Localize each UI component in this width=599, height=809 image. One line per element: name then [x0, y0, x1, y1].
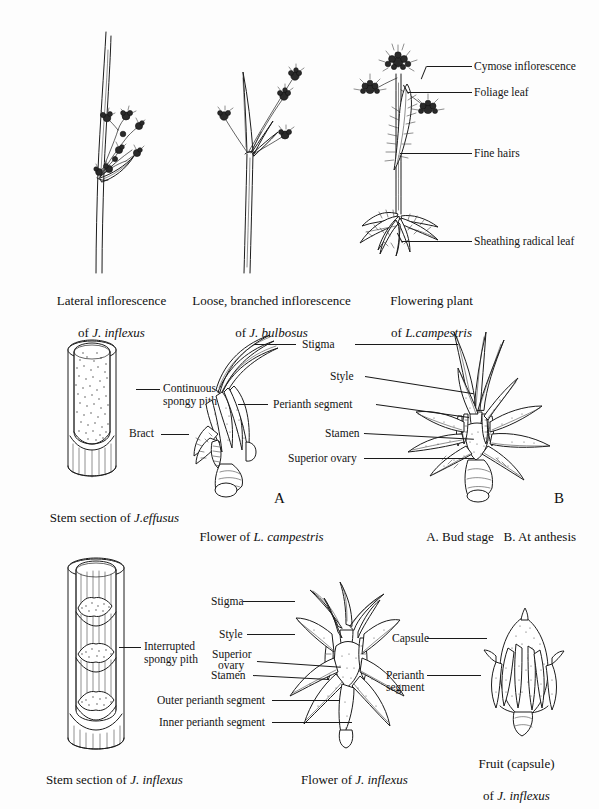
caption-line-1: Fruit (capsule)	[478, 756, 554, 771]
caption-prefix: Flower of	[199, 529, 253, 544]
leader-interrupted-spongy-pith	[119, 647, 141, 648]
label-perianth-segment-mid: Perianth segment	[273, 398, 353, 411]
leader-bract	[161, 434, 189, 435]
label-superior-ovary-mid: Superior ovary	[288, 452, 357, 465]
leader-capsule	[427, 638, 487, 639]
botanical-plate: Lateral inflorescence of J. inflexus	[0, 0, 599, 809]
figure-fruit-capsule-drawing	[470, 608, 580, 743]
caption-line-1: Lateral inflorescence	[57, 293, 166, 308]
label-foliage-leaf: Foliage leaf	[474, 86, 529, 99]
label-style-mid: Style	[330, 370, 354, 383]
caption-species: L. campestris	[254, 529, 324, 544]
leader-sheathing-radical-leaf	[402, 241, 472, 242]
caption-line-2-species: J. inflexus	[497, 788, 550, 803]
caption-prefix: Stem section of	[46, 772, 130, 787]
label-stamen-inflexus: Stamen	[211, 669, 246, 682]
figure-stem-inflexus-drawing	[58, 556, 138, 752]
leader-stigma-inflexus	[243, 601, 295, 602]
marker-b-flower: B	[554, 490, 564, 507]
label-segment-fruit: segment	[386, 681, 424, 694]
leader-outer-perianth-segment	[272, 700, 340, 701]
leader-inner-perianth-segment	[272, 722, 352, 723]
caption-line-1: Loose, branched inflorescence	[192, 293, 350, 308]
label-capsule: Capsule	[392, 632, 429, 645]
caption-prefix: Stem section of	[50, 510, 134, 525]
label-style-inflexus: Style	[219, 628, 243, 641]
label-stigma-inflexus: Stigma	[211, 595, 244, 608]
leader-stigma-left	[254, 344, 296, 345]
figure-stem-effusus-drawing	[58, 336, 130, 480]
label-bract: Bract	[129, 427, 154, 440]
label-fine-hairs: Fine hairs	[474, 147, 520, 160]
label-interrupted: Interrupted	[144, 640, 195, 653]
figure-loose-inflorescence-drawing	[212, 32, 322, 275]
caption-stem-inflexus: Stem section of J. inflexus	[8, 756, 208, 804]
leader-perianth-segment-fruit	[427, 675, 481, 676]
caption-prefix: Flower of	[301, 772, 355, 787]
caption-species: J. inflexus	[130, 772, 183, 787]
leader-perianth-left	[238, 404, 268, 405]
leader-superior-ovary-right	[364, 458, 474, 459]
leader-stigma-right	[355, 344, 458, 345]
marker-a-flower: A	[274, 490, 285, 507]
caption-fruit-capsule: Fruit (capsule) of J. inflexus	[430, 740, 590, 809]
leader-style-inflexus	[247, 634, 295, 635]
label-inner-perianth-segment: Inner perianth segment	[159, 716, 265, 729]
leader-continuous-spongy-pith	[136, 389, 160, 390]
caption-line-1: Flowering plant	[390, 293, 473, 308]
caption-flower-inflexus: Flower of J. inflexus	[248, 756, 448, 804]
label-stigma-mid: Stigma	[302, 338, 335, 351]
label-spongy-pith-2: spongy pith	[144, 653, 198, 666]
figure-flower-anthesis-drawing	[400, 330, 580, 505]
caption-flower-stages: A. Bud stage B. At anthesis	[390, 513, 599, 561]
figure-flowering-plant-drawing	[352, 38, 482, 270]
label-stamen-mid: Stamen	[325, 427, 360, 440]
caption-stages-text: A. Bud stage B. At anthesis	[426, 529, 576, 544]
figure-flower-campestris-drawing	[186, 330, 296, 500]
leader-fine-hairs	[400, 153, 472, 154]
caption-line-2-prefix: of	[483, 788, 497, 803]
label-sheathing-radical-leaf: Sheathing radical leaf	[474, 235, 574, 248]
label-cymose-inflorescence: Cymose inflorescence	[474, 60, 576, 73]
figure-flower-inflexus-drawing	[276, 580, 426, 750]
leader-foliage-leaf	[408, 92, 472, 93]
caption-species: J. inflexus	[355, 772, 408, 787]
leader-cymose-inflorescence	[427, 66, 472, 67]
caption-flower-campestris: Flower of L. campestris	[160, 513, 350, 561]
figure-lateral-inflorescence-drawing	[70, 30, 160, 275]
label-outer-perianth-segment: Outer perianth segment	[157, 694, 265, 707]
